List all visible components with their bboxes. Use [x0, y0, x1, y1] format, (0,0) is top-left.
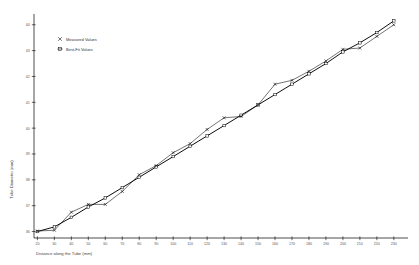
- data-point-measured: [307, 70, 310, 73]
- x-axis-title: Distance along the Tube (mm): [36, 251, 93, 256]
- data-point-best-fit: [121, 186, 124, 189]
- x-tick-label: 190: [323, 242, 329, 246]
- x-tick-label: 150: [255, 242, 261, 246]
- x-tick-label: 90: [154, 242, 158, 246]
- data-point-measured: [189, 142, 192, 145]
- data-point-best-fit: [53, 226, 56, 229]
- data-point-best-fit: [325, 62, 328, 65]
- data-point-best-fit: [104, 197, 107, 200]
- chart-legend: Measured ValuesBest-Fit Values: [57, 37, 96, 52]
- data-point-best-fit: [172, 155, 175, 158]
- chart-container: 363738394041424344 203040506070809010011…: [0, 0, 419, 265]
- data-point-best-fit: [138, 176, 141, 179]
- y-tick-label: 39: [26, 152, 30, 156]
- data-point-best-fit: [223, 124, 226, 127]
- series-measured-values: [36, 23, 395, 232]
- legend-item: Measured Values: [58, 37, 97, 42]
- y-tick-label: 40: [26, 127, 30, 131]
- x-tick-label: 140: [238, 242, 244, 246]
- y-tick-label: 41: [26, 101, 30, 105]
- x-tick-label: 180: [306, 242, 312, 246]
- data-point-measured: [324, 59, 327, 62]
- data-point-best-fit: [308, 73, 311, 76]
- y-tick-label: 38: [26, 178, 30, 182]
- y-tick-label: 37: [26, 204, 30, 208]
- data-point-measured: [172, 151, 175, 154]
- x-tick-label: 200: [340, 242, 346, 246]
- data-point-best-fit: [376, 31, 379, 34]
- data-point-best-fit: [291, 83, 294, 86]
- y-tick-label: 44: [26, 23, 30, 27]
- y-tick-label: 36: [26, 230, 30, 234]
- y-axis: 363738394041424344: [26, 14, 36, 238]
- x-tick-label: 80: [137, 242, 141, 246]
- line-chart: 363738394041424344 203040506070809010011…: [0, 0, 419, 265]
- data-point-best-fit: [274, 93, 277, 96]
- series-best-fit-values: [36, 20, 395, 233]
- x-tick-label: 130: [221, 242, 227, 246]
- x-tick-label: 20: [35, 242, 39, 246]
- data-point-best-fit: [359, 42, 362, 45]
- data-point-measured: [206, 128, 209, 131]
- data-point-best-fit: [393, 20, 396, 23]
- x-tick-label: 170: [289, 242, 295, 246]
- x-tick-label: 60: [103, 242, 107, 246]
- data-point-best-fit: [70, 216, 73, 219]
- data-point-best-fit: [342, 51, 345, 54]
- best-fit-line: [37, 21, 393, 232]
- data-point-measured: [392, 23, 395, 26]
- x-tick-label: 120: [204, 242, 210, 246]
- x-tick-label: 70: [120, 242, 124, 246]
- y-axis-title: Tube Diameter (mm): [9, 160, 14, 199]
- y-tick-label: 43: [26, 49, 30, 53]
- x-tick-label: 210: [357, 242, 363, 246]
- data-point-measured: [375, 35, 378, 38]
- data-point-best-fit: [189, 145, 192, 148]
- data-point-measured: [138, 173, 141, 176]
- x-tick-label: 160: [272, 242, 278, 246]
- x-tick-label: 110: [187, 242, 193, 246]
- x-axis: 2030405060708090100110120130140150160170…: [34, 236, 408, 246]
- data-point-best-fit: [206, 135, 209, 138]
- legend-label: Measured Values: [66, 37, 97, 42]
- x-tick-label: 50: [86, 242, 90, 246]
- data-point-measured: [70, 211, 73, 214]
- x-tick-label: 230: [391, 242, 397, 246]
- x-tick-label: 100: [170, 242, 176, 246]
- y-tick-label: 42: [26, 75, 30, 79]
- data-point-measured: [121, 190, 124, 193]
- measured-line: [37, 25, 393, 231]
- legend-item: Best-Fit Values: [57, 47, 92, 52]
- data-point-best-fit: [87, 206, 90, 209]
- legend-label: Best-Fit Values: [66, 47, 93, 52]
- x-tick-label: 220: [374, 242, 380, 246]
- x-tick-label: 30: [52, 242, 56, 246]
- x-tick-label: 40: [69, 242, 73, 246]
